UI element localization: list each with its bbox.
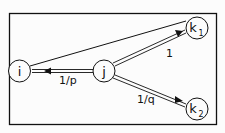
svg-text:k: k xyxy=(189,101,197,116)
svg-text:i: i xyxy=(18,64,22,79)
svg-text:j: j xyxy=(101,64,106,79)
random-walk-diagram: 1/p 1 1/q i j k 1 k 2 xyxy=(0,0,225,133)
svg-text:1: 1 xyxy=(198,29,203,38)
svg-text:2: 2 xyxy=(198,110,203,119)
svg-text:k: k xyxy=(189,20,197,35)
edge-label-1-over-p: 1/p xyxy=(59,74,77,87)
edge-j-k1 xyxy=(113,30,186,66)
arrowhead-icon xyxy=(44,68,51,75)
node-j: j xyxy=(93,60,115,82)
node-k1: k 1 xyxy=(186,17,208,39)
edge-label-1-over-q: 1/q xyxy=(137,93,155,106)
edge-label-1: 1 xyxy=(166,47,173,60)
node-i: i xyxy=(9,60,31,82)
node-k2: k 2 xyxy=(186,98,208,120)
